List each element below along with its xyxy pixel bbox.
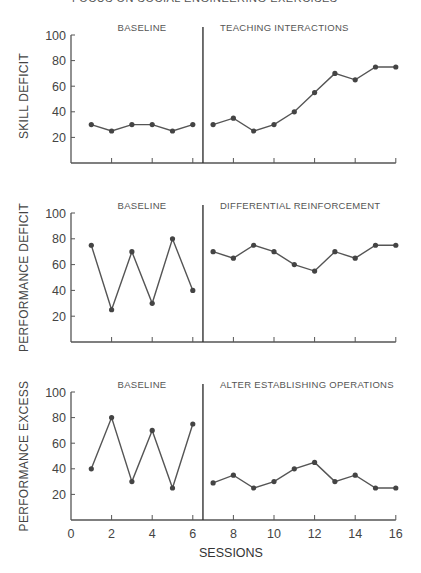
data-point <box>312 268 317 273</box>
y-tick-label: 40 <box>52 284 66 298</box>
data-point <box>211 480 216 485</box>
x-tick-label: 10 <box>267 527 281 541</box>
y-tick-label: 60 <box>52 258 66 272</box>
data-point <box>332 71 337 76</box>
y-tick-label: 60 <box>52 437 66 451</box>
data-point <box>353 77 358 82</box>
data-line <box>213 67 396 131</box>
phase-label: ALTER ESTABLISHING OPERATIONS <box>220 379 394 390</box>
data-point <box>292 466 297 471</box>
data-point <box>109 307 114 312</box>
data-point <box>312 90 317 95</box>
chart-panel-1: 20406080100SKILL DEFICITBASELINETEACHING… <box>17 22 398 163</box>
data-point <box>373 243 378 248</box>
y-tick-label: 20 <box>52 488 66 502</box>
data-point <box>109 415 114 420</box>
x-tick-label: 14 <box>348 527 362 541</box>
x-tick-label: 0 <box>68 527 75 541</box>
data-point <box>231 256 236 261</box>
y-tick-label: 20 <box>52 131 66 145</box>
x-tick-label: 2 <box>108 527 115 541</box>
y-tick-label: 80 <box>52 411 66 425</box>
data-point <box>129 479 134 484</box>
data-point <box>271 479 276 484</box>
data-point <box>292 262 297 267</box>
data-point <box>150 122 155 127</box>
x-tick-label: 6 <box>189 527 196 541</box>
data-point <box>129 122 134 127</box>
data-point <box>190 288 195 293</box>
x-axis-label: SESSIONS <box>199 546 263 560</box>
y-tick-label: 100 <box>45 29 66 43</box>
x-tick-label: 8 <box>230 527 237 541</box>
data-point <box>292 109 297 114</box>
data-line <box>213 462 396 488</box>
phase-label: TEACHING INTERACTIONS <box>220 22 349 33</box>
data-point <box>89 243 94 248</box>
y-tick-label: 100 <box>45 386 66 400</box>
data-point <box>251 243 256 248</box>
data-point <box>170 128 175 133</box>
data-point <box>271 249 276 254</box>
y-tick-label: 100 <box>45 207 66 221</box>
y-axis-label: SKILL DEFICIT <box>17 53 31 140</box>
data-point <box>170 236 175 241</box>
data-point <box>332 479 337 484</box>
data-point <box>211 249 216 254</box>
chart-panel-3: 204060801000246810121416PERFORMANCE EXCE… <box>17 379 403 560</box>
data-point <box>312 460 317 465</box>
multiple-baseline-chart: 20406080100SKILL DEFICITBASELINETEACHING… <box>0 0 421 573</box>
data-point <box>109 128 114 133</box>
data-point <box>190 421 195 426</box>
data-point <box>150 428 155 433</box>
x-tick-label: 4 <box>149 527 156 541</box>
phase-label: BASELINE <box>118 379 167 390</box>
data-point <box>353 256 358 261</box>
data-point <box>89 466 94 471</box>
data-point <box>373 485 378 490</box>
y-tick-label: 20 <box>52 310 66 324</box>
y-axis-label: PERFORMANCE EXCESS <box>17 381 31 532</box>
x-tick-label: 16 <box>389 527 403 541</box>
phase-label: DIFFERENTIAL REINFORCEMENT <box>220 200 381 211</box>
data-point <box>129 249 134 254</box>
data-point <box>251 128 256 133</box>
data-point <box>393 64 398 69</box>
data-point <box>190 122 195 127</box>
data-point <box>231 473 236 478</box>
chart-panel-2: 20406080100PERFORMANCE DEFICITBASELINEDI… <box>17 200 398 352</box>
data-line <box>91 125 193 131</box>
y-axis-label: PERFORMANCE DEFICIT <box>17 203 31 352</box>
data-point <box>150 301 155 306</box>
data-point <box>373 64 378 69</box>
y-tick-label: 60 <box>52 80 66 94</box>
data-point <box>353 473 358 478</box>
data-line <box>213 245 396 271</box>
data-point <box>393 243 398 248</box>
data-point <box>170 485 175 490</box>
y-tick-label: 40 <box>52 462 66 476</box>
data-point <box>332 249 337 254</box>
data-point <box>89 122 94 127</box>
y-tick-label: 40 <box>52 105 66 119</box>
x-tick-label: 12 <box>308 527 322 541</box>
data-line <box>91 418 193 488</box>
y-tick-label: 80 <box>52 54 66 68</box>
data-point <box>251 485 256 490</box>
data-point <box>271 122 276 127</box>
phase-label: BASELINE <box>118 22 167 33</box>
phase-label: BASELINE <box>118 200 167 211</box>
y-tick-label: 80 <box>52 232 66 246</box>
data-point <box>231 116 236 121</box>
data-point <box>393 485 398 490</box>
data-line <box>91 239 193 310</box>
data-point <box>211 122 216 127</box>
